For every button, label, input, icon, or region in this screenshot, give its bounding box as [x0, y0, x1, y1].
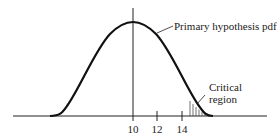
pdf-label: Primary hypothesis pdf [174, 20, 277, 32]
critical-pointer [197, 95, 205, 104]
pdf-curve [50, 22, 213, 116]
critical-label-line1: Critical [209, 81, 242, 93]
tick-label-14: 14 [177, 123, 189, 135]
pdf-pointer [157, 26, 173, 33]
tick-label-10: 10 [128, 123, 140, 135]
pdf-chart: Primary hypothesis pdf Critical region 1… [0, 0, 279, 138]
tick-label-12: 12 [152, 123, 163, 135]
critical-label-line2: region [209, 93, 238, 105]
